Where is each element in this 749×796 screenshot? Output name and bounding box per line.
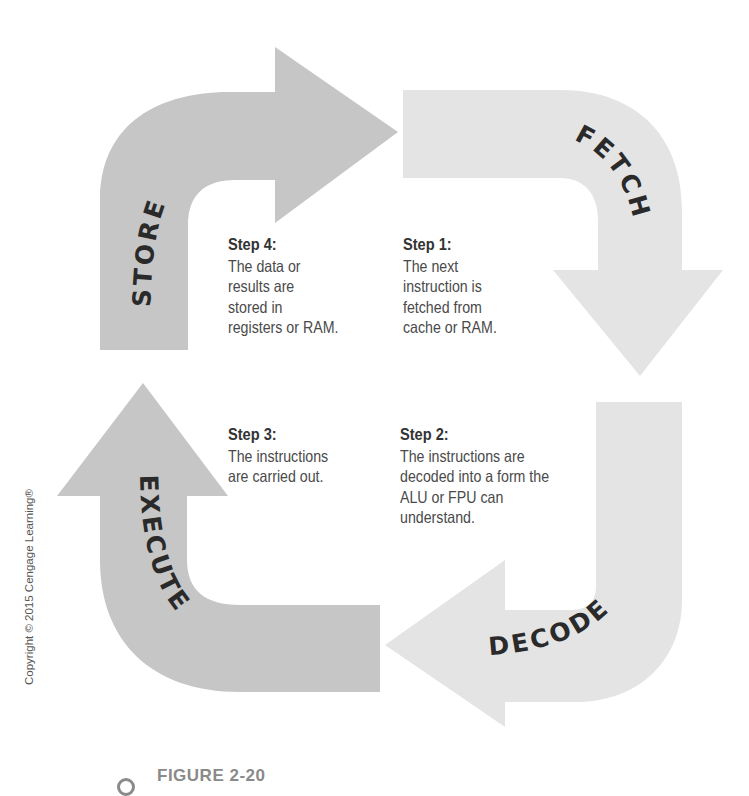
step-1-text: The next instruction is fetched from cac… xyxy=(403,256,497,338)
step-3-title: Step 3: xyxy=(228,425,328,446)
figure-caption: FIGURE 2-20 xyxy=(157,766,265,786)
step-2-description: Step 2: The instructions are decoded int… xyxy=(400,425,549,528)
step-3-text: The instructions are carried out. xyxy=(228,446,328,487)
step-4-description: Step 4: The data or results are stored i… xyxy=(228,235,338,338)
step-2-text: The instructions are decoded into a form… xyxy=(400,446,549,528)
execute-arrow xyxy=(57,383,380,692)
copyright-notice: Copyright © 2015 Cengage Learning® xyxy=(23,489,35,685)
step-3-description: Step 3: The instructions are carried out… xyxy=(228,425,328,487)
step-4-text: The data or results are stored in regist… xyxy=(228,256,338,338)
step-2-title: Step 2: xyxy=(400,425,549,446)
figure-badge-icon xyxy=(117,778,135,796)
step-1-description: Step 1: The next instruction is fetched … xyxy=(403,235,497,338)
step-4-title: Step 4: xyxy=(228,235,338,256)
step-1-title: Step 1: xyxy=(403,235,497,256)
